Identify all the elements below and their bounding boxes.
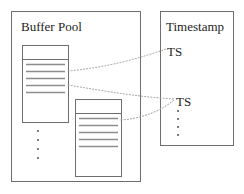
- diagram-svg: Buffer Pool Timestamp: [0, 0, 244, 194]
- page-1-outline: [23, 46, 69, 123]
- ellipsis-dot: [177, 118, 179, 120]
- buffer-pool-label: Buffer Pool: [21, 19, 82, 34]
- ellipsis-dot: [37, 157, 39, 159]
- page-2-outline: [76, 100, 122, 177]
- timestamp-entry-2: TS: [176, 94, 191, 109]
- buffer-page-1: [23, 46, 69, 123]
- timestamp-entry-1: TS: [167, 44, 182, 59]
- ellipsis-dot: [37, 139, 39, 141]
- ellipsis-dot: [177, 110, 179, 112]
- ellipsis-dot: [177, 126, 179, 128]
- diagram-canvas: Buffer Pool Timestamp: [0, 0, 244, 194]
- timestamp-container: Timestamp: [161, 12, 234, 146]
- ellipsis-dot: [37, 148, 39, 150]
- buffer-page-2: [76, 100, 122, 177]
- timestamp-label: Timestamp: [166, 19, 224, 34]
- ellipsis-dot: [177, 134, 179, 136]
- ellipsis-dot: [37, 130, 39, 132]
